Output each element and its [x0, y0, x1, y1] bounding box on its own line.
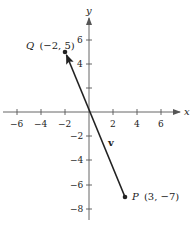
x-tick-label: −4 — [34, 119, 48, 129]
y-tick-label: −8 — [70, 204, 84, 214]
x-tick-label: 2 — [110, 119, 116, 129]
x-tick-label: −2 — [58, 119, 71, 129]
point-p-coords: (3, −7) — [144, 191, 179, 202]
point-p — [123, 195, 128, 200]
y-tick-label: −4 — [70, 155, 84, 165]
x-axis-label: x — [184, 106, 190, 117]
y-tick-label: 4 — [77, 59, 83, 69]
vector-v — [67, 55, 126, 197]
point-p-label: P (3, −7) — [131, 191, 179, 202]
x-tick-label: 4 — [134, 119, 140, 129]
point-q-label: Q (−2, 5) — [26, 40, 75, 51]
x-tick-label: −6 — [10, 119, 24, 129]
y-tick-label: −2 — [70, 131, 83, 141]
point-p-letter: P — [131, 191, 139, 202]
point-q-letter: Q — [26, 40, 34, 51]
point-q-coords: (−2, 5) — [39, 40, 74, 51]
y-tick-label: −6 — [70, 180, 84, 190]
x-tick-label: 6 — [158, 119, 164, 129]
y-tick-label: 6 — [77, 35, 83, 45]
vector-label: v — [107, 137, 115, 148]
y-axis-label: y — [85, 5, 92, 16]
coordinate-plane: x y −6 −4 −2 2 4 6 6 4 −2 −4 −6 −8 v Q (… — [0, 0, 193, 231]
